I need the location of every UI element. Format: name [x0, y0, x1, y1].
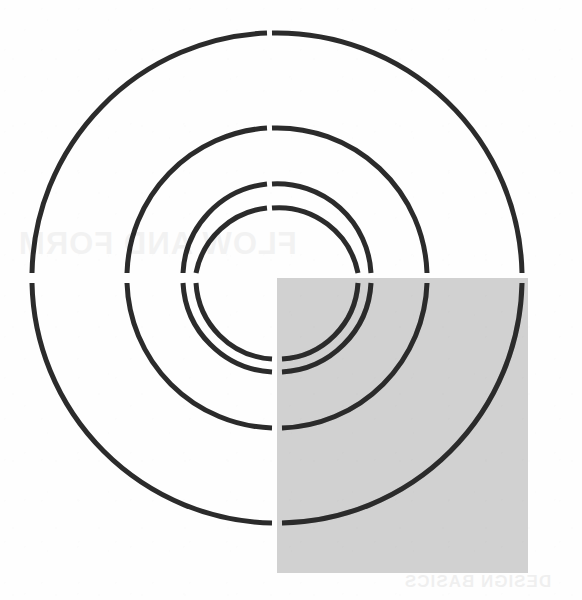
figure-page: FLOW AND FORM DESIGN BASICS: [0, 0, 582, 600]
arc-spiral-figure: [0, 0, 582, 600]
